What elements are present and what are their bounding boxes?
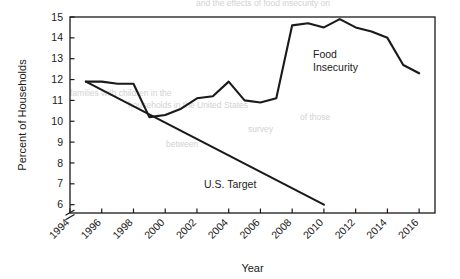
x-axis-tick-label: 1998: [110, 216, 135, 241]
y-axis-title: Percent of Households: [16, 59, 28, 171]
background-bleed-text: and the effects of food insecurity on: [196, 0, 330, 8]
series-label-food-insecurity-line2: Insecurity: [313, 61, 359, 73]
y-axis-tick-label: 13: [51, 52, 63, 64]
y-axis-tick-label: 7: [57, 177, 63, 189]
y-axis-tick-label: 14: [51, 31, 63, 43]
y-axis-tick-label: 12: [51, 73, 63, 85]
y-axis-tick-label: 15: [51, 11, 63, 23]
x-axis-tick-label: 2016: [396, 216, 421, 241]
x-axis-tick-label: 2014: [364, 216, 389, 241]
x-axis-tick-label: 1994: [46, 216, 71, 241]
y-axis-break-mark: [66, 215, 75, 220]
background-bleed-text: families with children in the: [70, 88, 172, 98]
background-bleed-text: of those: [300, 112, 331, 122]
chart-canvas: and the effects of food insecurity onfam…: [0, 0, 460, 279]
y-axis-tick-label: 11: [52, 94, 63, 106]
x-axis-tick-label: 2006: [237, 216, 262, 241]
y-axis-tick-label: 8: [57, 157, 63, 169]
x-axis-tick-label: 2010: [300, 216, 325, 241]
background-bleed-text: survey: [248, 124, 274, 134]
x-axis-title: Year: [241, 262, 264, 274]
series-label-us-target: U.S. Target: [204, 178, 256, 190]
y-axis-tick-label: 6: [57, 198, 63, 210]
y-axis-tick-label: 9: [57, 136, 63, 148]
x-axis-tick-label: 1996: [78, 216, 103, 241]
x-axis-tick-label: 2004: [205, 216, 230, 241]
background-bleed-text: between: [166, 139, 198, 149]
x-axis-tick-label: 2012: [332, 216, 357, 241]
x-axis-tick-label: 2000: [142, 216, 167, 241]
y-axis-tick-label: 10: [51, 115, 63, 127]
food-insecurity-chart: and the effects of food insecurity onfam…: [0, 0, 460, 279]
series-label-food-insecurity-line1: Food: [313, 48, 337, 60]
x-axis-tick-label: 2002: [173, 216, 198, 241]
x-axis-tick-label: 2008: [269, 216, 294, 241]
